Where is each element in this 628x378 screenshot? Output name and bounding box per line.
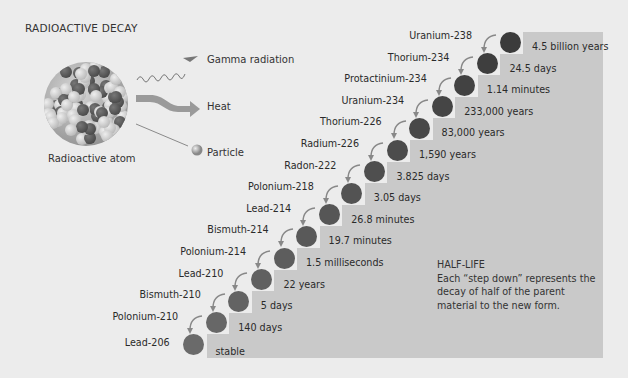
nuclide-label: Thorium-226 (262, 116, 382, 127)
nuclide-label: Radon-222 (216, 160, 336, 171)
decay-arrow-icon (434, 76, 454, 98)
nucleus-icon (432, 96, 453, 117)
half-life-label: 1.14 minutes (487, 84, 550, 95)
decay-arrow-icon (276, 227, 296, 249)
half-life-label: 1.5 milliseconds (306, 257, 384, 268)
nuclide-label: Bismuth-210 (81, 289, 201, 300)
half-life-label: 3.05 days (374, 192, 421, 203)
half-life-note: HALF-LIFE Each “step down” represents th… (437, 258, 607, 312)
step-background (207, 334, 603, 358)
half-life-label: 233,000 years (464, 106, 533, 117)
nucleus-icon (477, 53, 498, 74)
particle-icon (192, 145, 203, 156)
gamma-radiation-label: Gamma radiation (207, 54, 294, 65)
nuclide-label: Thorium-234 (329, 52, 449, 63)
nucleus-icon (387, 140, 408, 161)
decay-arrow-icon (343, 163, 363, 185)
nuclide-label: Uranium-234 (284, 95, 404, 106)
half-life-label: 3.825 days (396, 171, 449, 182)
nucleus-icon (409, 118, 430, 139)
nucleus-icon (500, 32, 521, 53)
nuclide-label: Uranium-238 (352, 30, 472, 41)
nuclide-label: Lead-210 (103, 268, 223, 279)
half-life-label: 26.8 minutes (351, 214, 414, 225)
nucleus-icon (296, 226, 317, 247)
decay-arrow-icon (230, 271, 250, 293)
wavy-arrow-icon (137, 74, 185, 82)
nucleus-icon (454, 75, 475, 96)
decay-arrow-icon (366, 141, 386, 163)
nucleus-icon (251, 269, 272, 290)
heat-label: Heat (207, 101, 231, 112)
nuclide-label: Lead-206 (50, 337, 170, 348)
decay-arrow-icon (389, 119, 409, 141)
decay-arrow-icon (253, 249, 273, 271)
nuclide-label: Bismuth-214 (149, 224, 269, 235)
thick-arrow-icon (136, 95, 200, 117)
nucleus-icon (341, 183, 362, 204)
nuclide-label: Polonium-218 (194, 181, 314, 192)
decay-arrow-icon (411, 98, 431, 120)
nucleus-icon (274, 248, 295, 269)
nucleus-icon (364, 161, 385, 182)
nucleus-icon (183, 334, 204, 355)
nuclide-label: Polonium-214 (126, 246, 246, 257)
half-life-text: Each “step down” represents the decay of… (437, 272, 607, 313)
half-life-label: 5 days (261, 300, 293, 311)
half-life-label: 19.7 minutes (329, 235, 392, 246)
half-life-heading: HALF-LIFE (437, 258, 607, 272)
nuclide-label: Lead-214 (171, 203, 291, 214)
decay-arrow-icon (208, 292, 228, 314)
half-life-label: 24.5 days (509, 63, 556, 74)
half-life-label: 1,590 years (419, 149, 476, 160)
decay-arrow-icon (185, 314, 205, 336)
nuclide-label: Protactinium-234 (307, 73, 427, 84)
nucleus-icon (206, 312, 227, 333)
nucleus-icon (319, 204, 340, 225)
nucleus-icon (228, 291, 249, 312)
nuclide-label: Polonium-210 (58, 311, 178, 322)
decay-arrow-icon (456, 55, 476, 77)
half-life-label: 4.5 billion years (532, 41, 608, 52)
half-life-label: 83,000 years (442, 127, 505, 138)
half-life-label: 140 days (238, 322, 282, 333)
decay-arrow-icon (298, 206, 318, 228)
decay-arrow-icon (321, 184, 341, 206)
nuclide-label: Radium-226 (239, 138, 359, 149)
decay-arrow-icon (479, 33, 499, 55)
half-life-label: stable (216, 346, 245, 357)
half-life-label: 22 years (283, 279, 325, 290)
